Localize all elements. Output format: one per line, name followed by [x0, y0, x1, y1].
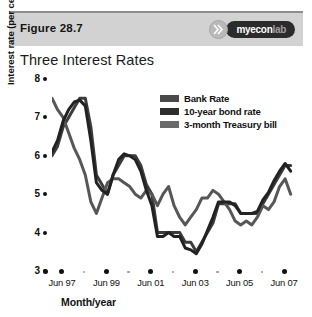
legend-swatch [160, 108, 179, 115]
x-axis-origin-dot [43, 269, 48, 274]
y-axis-tick-dot [43, 77, 47, 81]
x-axis-minor-tick-dot [261, 271, 264, 274]
x-axis-tick-label: Jun 97 [39, 277, 85, 288]
figure-card: Figure 28.7 myeconlab Three Interest Rat… [9, 11, 303, 308]
x-axis-label: Month/year [61, 296, 116, 308]
legend-item: 3-month Treasury bill [160, 119, 277, 130]
legend-label: 10-year bond rate [184, 106, 261, 117]
legend-label: 3-month Treasury bill [184, 119, 277, 130]
x-axis-tick-label: Jun 05 [217, 277, 263, 288]
logo-text-my: my [236, 21, 250, 38]
legend-label: Bank Rate [184, 93, 229, 104]
figure-title: Three Interest Rates [20, 52, 154, 68]
y-axis-tick-dot [43, 154, 47, 158]
x-axis-tick-label: Jun 07 [261, 277, 307, 288]
legend-swatch [160, 121, 179, 128]
x-axis-minor-tick-dot [172, 271, 175, 274]
y-axis-tick-label: 5 [26, 188, 40, 199]
logo-text-econ: econ [250, 21, 272, 38]
logo-text-lab: lab [272, 21, 286, 38]
x-axis-tick-dot [237, 269, 242, 274]
x-axis-minor-tick-dot [127, 271, 130, 274]
y-axis-tick-dot [43, 192, 47, 196]
y-axis-tick-dot [43, 115, 47, 119]
y-axis-tick-label: 6 [26, 150, 40, 161]
figure-label: Figure 28.7 [20, 22, 83, 34]
y-axis-label: Interest rate (per cent per year) [5, 0, 16, 85]
x-axis-tick-dot [193, 269, 198, 274]
legend-item: 10-year bond rate [160, 106, 277, 117]
x-axis-tick-dot [282, 269, 287, 274]
x-axis-tick-dot [59, 269, 64, 274]
y-axis-tick-label: 4 [26, 227, 40, 238]
x-axis-tick-label: Jun 03 [172, 277, 218, 288]
figure-banner: Figure 28.7 myeconlab [9, 11, 303, 46]
y-axis-tick-label: 3 [26, 265, 40, 276]
logo-wordmark: myeconlab [226, 21, 295, 38]
y-axis-tick-label: 8 [26, 73, 40, 84]
x-axis-tick-dot [104, 269, 109, 274]
chart-legend: Bank Rate10-year bond rate3-month Treasu… [160, 93, 277, 132]
double-chevron-icon [209, 20, 228, 39]
legend-swatch [160, 95, 179, 102]
x-axis-tick-label: Jun 01 [128, 277, 174, 288]
x-axis-tick-dot [148, 269, 153, 274]
x-axis-tick-label: Jun 99 [83, 277, 129, 288]
myeconlab-logo[interactable]: myeconlab [209, 20, 295, 38]
legend-item: Bank Rate [160, 93, 277, 104]
x-axis-minor-tick-dot [216, 271, 219, 274]
y-axis-tick-label: 7 [26, 111, 40, 122]
y-axis-tick-dot [43, 231, 47, 235]
